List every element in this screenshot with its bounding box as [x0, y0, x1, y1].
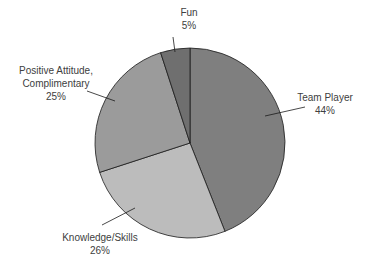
label-knowledge-name: Knowledge/Skills [50, 231, 150, 244]
label-team-player-name: Team Player [290, 91, 360, 104]
label-positive-name-line1: Positive Attitude, [6, 64, 106, 77]
label-positive-name-line2: Complimentary [6, 77, 106, 90]
label-positive-pct: 25% [6, 90, 106, 103]
label-team-player: Team Player 44% [290, 91, 360, 117]
label-knowledge-skills: Knowledge/Skills 26% [50, 231, 150, 257]
label-fun-name: Fun [164, 6, 214, 19]
label-fun: Fun 5% [164, 6, 214, 32]
label-knowledge-pct: 26% [50, 244, 150, 257]
label-fun-pct: 5% [164, 19, 214, 32]
label-positive-attitude: Positive Attitude, Complimentary 25% [6, 64, 106, 103]
pie-chart [0, 0, 369, 269]
label-team-player-pct: 44% [290, 104, 360, 117]
